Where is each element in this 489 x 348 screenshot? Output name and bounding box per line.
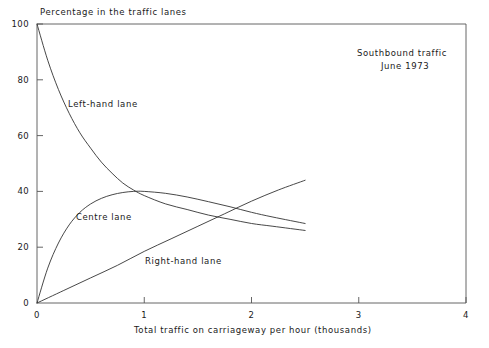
x-tick-label: 4 — [456, 310, 476, 320]
y-tick-label: 100 — [3, 19, 29, 29]
annotation-period: June 1973 — [381, 61, 429, 71]
series-label-left-hand-lane: Left-hand lane — [68, 99, 138, 109]
x-tick-label: 0 — [27, 310, 47, 320]
series-line-centre-lane — [37, 191, 305, 303]
y-tick-label: 80 — [3, 75, 29, 85]
x-tick-label: 2 — [242, 310, 262, 320]
chart-figure: Percentage in the traffic lanes Total tr… — [0, 0, 489, 348]
x-tick-label: 3 — [349, 310, 369, 320]
x-tick-label: 1 — [134, 310, 154, 320]
y-tick-label: 40 — [3, 186, 29, 196]
x-axis-title: Total traffic on carriageway per hour (t… — [134, 325, 372, 335]
x-axis-ticks — [144, 297, 466, 303]
series-line-right-hand-lane — [37, 180, 305, 303]
series-line-left-hand-lane — [37, 24, 305, 230]
y-tick-label: 60 — [3, 131, 29, 141]
y-tick-label: 0 — [3, 298, 29, 308]
series-label-centre-lane: Centre lane — [76, 212, 132, 222]
y-axis-title: Percentage in the traffic lanes — [40, 7, 187, 17]
y-axis-ticks — [37, 24, 43, 247]
annotation-direction: Southbound traffic — [357, 48, 447, 58]
series-label-right-hand-lane: Right-hand lane — [145, 256, 222, 266]
y-tick-label: 20 — [3, 242, 29, 252]
